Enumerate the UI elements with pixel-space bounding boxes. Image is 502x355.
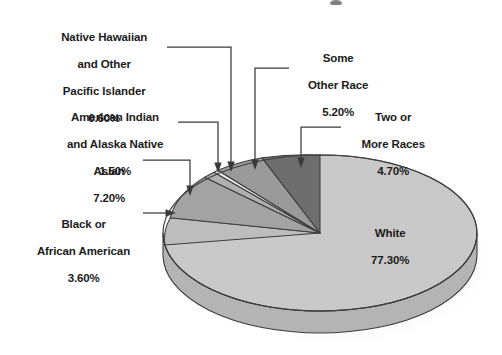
label-white: White 77.30% <box>343 214 425 281</box>
pie-chart-page: Native Hawaiian and Other Pacific Island… <box>0 0 502 355</box>
leader-line-some-other-race <box>255 68 289 160</box>
label-native-hawaiian-line2: and Other <box>77 58 130 70</box>
leader-line-american-indian <box>178 122 218 163</box>
label-white-line1: White <box>375 227 406 239</box>
label-native-hawaiian-line3: Pacific Islander <box>63 85 146 97</box>
label-american-indian-line2: and Alaska Native <box>67 138 163 150</box>
label-some-other-line2: Other Race <box>308 79 368 91</box>
label-two-or-more-line2: More Races <box>361 138 425 150</box>
label-some-other-line1: Some <box>323 52 354 64</box>
cropped-title-fragment <box>326 0 352 5</box>
label-asian-line1: Asian <box>94 165 125 177</box>
label-two-or-more-line1: Two or <box>375 111 411 123</box>
label-asian-percent: 7.20% <box>93 192 125 204</box>
label-black-african-american: Black or African American 3.60% <box>12 205 143 299</box>
label-black-line1: Black or <box>61 218 106 230</box>
label-black-percent: 3.60% <box>68 272 100 284</box>
label-two-or-more-races: Two or More Races 4.70% <box>344 98 430 192</box>
pie-slices <box>164 155 477 311</box>
label-two-or-more-percent: 4.70% <box>377 165 409 177</box>
label-black-line2: African American <box>37 245 130 257</box>
label-white-percent: 77.30% <box>371 254 409 266</box>
label-native-hawaiian-line1: Native Hawaiian <box>61 31 147 43</box>
label-american-indian-line1: American Indian <box>71 111 159 123</box>
